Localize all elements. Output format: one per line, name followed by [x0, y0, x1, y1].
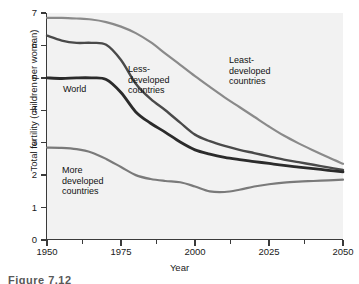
series-label-less-line3: countries — [128, 85, 170, 96]
series-lines — [0, 0, 359, 284]
line-least-developed-countries — [47, 18, 343, 164]
series-label-less-line2: developed — [128, 75, 170, 86]
series-label-less-developed: Less- developed countries — [128, 64, 170, 96]
series-label-world: World — [63, 84, 86, 95]
line-world — [47, 78, 343, 172]
series-label-more-line3: countries — [62, 186, 104, 197]
series-label-world-line1: World — [63, 84, 86, 95]
figure-caption: Figure 7.12 — [8, 274, 72, 284]
series-label-less-line1: Less- — [128, 64, 170, 75]
series-label-least-line2: developed — [229, 66, 271, 77]
series-label-more-line1: More — [62, 165, 104, 176]
series-label-least-line1: Least- — [229, 55, 271, 66]
series-label-least-developed: Least- developed countries — [229, 55, 271, 87]
series-label-more-line2: developed — [62, 176, 104, 187]
series-label-more-developed: More developed countries — [62, 165, 104, 197]
series-label-least-line3: countries — [229, 76, 271, 87]
figure-container: 01234567 19501975200020252050 Total fert… — [0, 0, 359, 284]
